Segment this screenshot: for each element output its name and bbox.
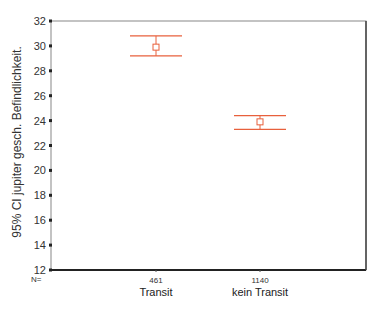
y-tick-label: 28 [34,65,46,77]
n-value: 461 [149,276,163,285]
y-tick-label: 24 [34,115,46,127]
category-label: Transit [139,286,172,298]
axes [51,21,366,270]
y-tick-mark [49,69,52,72]
y-tick-mark [49,94,52,97]
y-tick-mark [49,169,52,172]
category-label: kein Transit [232,286,288,298]
errorbar-chart: 1214161820222426283032 N=461Transit1140k… [0,0,379,312]
plot-frame [51,21,366,270]
y-tick-label: 18 [34,189,46,201]
y-axis-label: 95% CI jupiter gesch. Befindlichkeit. [10,27,24,257]
mean-marker [257,119,263,125]
y-tick-mark [49,244,52,247]
error-bar [234,116,286,130]
error-bars [130,36,286,129]
x-labels: N=461Transit1140kein Transit [31,270,288,298]
y-tick-label: 14 [34,239,46,251]
y-tick-mark [49,20,52,23]
mean-marker [153,44,159,50]
y-tick-label: 30 [34,40,46,52]
error-bar [130,36,182,56]
y-tick-label: 26 [34,90,46,102]
y-tick-label: 20 [34,164,46,176]
y-tick-label: 16 [34,214,46,226]
y-tick-mark [49,269,52,272]
n-value: 1140 [251,276,269,285]
y-tick-mark [49,144,52,147]
y-tick-label: 32 [34,15,46,27]
y-tick-mark [49,194,52,197]
n-label: N= [31,275,42,284]
y-ticks: 1214161820222426283032 [34,15,52,276]
y-tick-mark [49,44,52,47]
y-tick-label: 22 [34,140,46,152]
y-tick-mark [49,219,52,222]
y-tick-mark [49,119,52,122]
